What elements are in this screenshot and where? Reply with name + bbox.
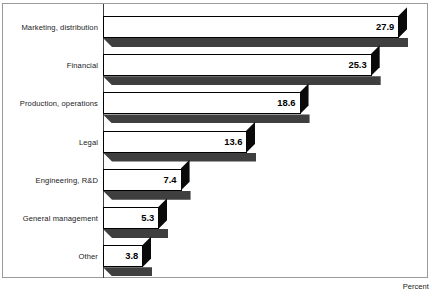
bar-value-label-4: 7.4 (103, 169, 177, 191)
bar-value-label-2: 18.6 (103, 92, 296, 114)
bar-shadow-6 (103, 267, 152, 276)
bar-value-label-1: 25.3 (103, 54, 367, 76)
bar-shadow-0 (103, 38, 408, 47)
bar-shadow-4 (103, 191, 191, 200)
category-label-1: Financial (6, 61, 98, 70)
bar-5: 5.3 (103, 207, 159, 238)
bar-value-label-0: 27.9 (103, 16, 394, 38)
bar-shadow-1 (103, 76, 381, 85)
bar-2: 18.6 (103, 92, 301, 123)
bar-value-label-6: 3.8 (103, 245, 138, 267)
bar-shadow-5 (103, 229, 168, 238)
bar-0: 27.9 (103, 16, 399, 47)
bar-chart: Marketing, distributionFinancialProducti… (0, 0, 432, 302)
category-label-0: Marketing, distribution (6, 23, 98, 32)
category-label-5: General management (6, 214, 98, 223)
bar-value-label-5: 5.3 (103, 207, 154, 229)
bar-3: 13.6 (103, 131, 247, 162)
category-label-4: Engineering, R&D (6, 176, 98, 185)
bar-4: 7.4 (103, 169, 182, 200)
bar-shadow-2 (103, 114, 310, 123)
bar-shadow-3 (103, 153, 256, 162)
bar-value-label-3: 13.6 (103, 131, 242, 153)
category-label-2: Production, operations (6, 99, 98, 108)
category-label-3: Legal (6, 138, 98, 147)
x-axis-title: Percent (403, 282, 429, 291)
bar-1: 25.3 (103, 54, 372, 85)
category-label-6: Other (6, 252, 98, 261)
bar-6: 3.8 (103, 245, 143, 276)
